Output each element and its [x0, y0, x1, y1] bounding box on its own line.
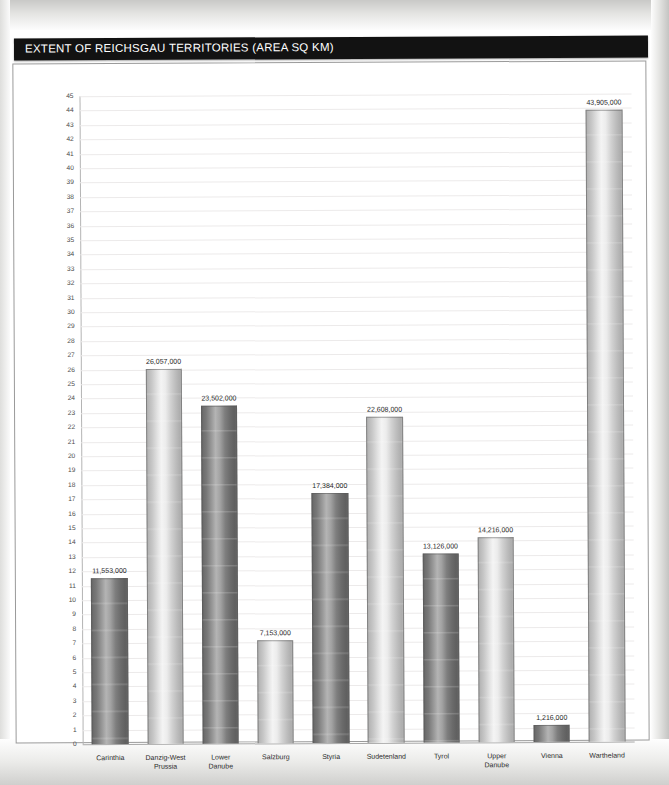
y-axis-line	[80, 96, 84, 744]
y-axis-tick-label: 19	[68, 467, 75, 474]
gridline	[80, 166, 632, 170]
y-axis-tick-label: 6	[73, 655, 77, 662]
gridline	[80, 94, 632, 98]
bar-value-label: 14,216,000	[478, 526, 513, 533]
y-axis-tick-label: 27	[67, 352, 74, 359]
y-axis-tick-label: 7	[72, 640, 76, 647]
y-axis-tick-label: 16	[68, 511, 75, 518]
bar-fill	[91, 578, 128, 745]
page-edge-top	[0, 0, 669, 30]
gridline	[80, 238, 632, 242]
bar-value-label: 23,502,000	[201, 394, 236, 401]
gridline	[81, 324, 633, 328]
bar-vienna[interactable]: 1,216,000Vienna	[534, 724, 571, 742]
y-axis-tick-label: 12	[68, 568, 75, 575]
y-axis-tick-label: 45	[66, 93, 73, 100]
y-axis-tick-label: 34	[67, 251, 74, 258]
bar-styria[interactable]: 17,384,000Styria	[312, 493, 350, 744]
bar-value-label: 26,057,000	[146, 358, 181, 365]
gridline	[80, 108, 632, 112]
y-axis-tick-label: 42	[66, 136, 73, 143]
x-axis-category-label: Wartheland	[569, 750, 645, 760]
page-edge-left	[0, 0, 10, 785]
plot-area: 0123456789101112131415161718192021222324…	[80, 94, 635, 745]
y-axis-tick-label: 33	[67, 266, 74, 273]
y-axis-tick-label: 23	[68, 410, 75, 417]
gridlines	[80, 94, 632, 97]
y-axis-tick-label: 1	[73, 727, 77, 734]
y-axis-tick-label: 0	[73, 741, 77, 748]
bar-value-label: 43,905,000	[586, 98, 621, 105]
y-axis-tick-label: 14	[68, 539, 75, 546]
y-axis-tick-label: 8	[72, 626, 76, 633]
y-axis-tick-label: 39	[67, 179, 74, 186]
y-axis-tick-label: 9	[72, 611, 76, 618]
gridline	[80, 281, 632, 285]
y-axis-tick-label: 30	[67, 309, 74, 316]
page-title: EXTENT OF REICHSGAU TERRITORIES (AREA SQ…	[25, 41, 334, 55]
page-edge-right	[651, 0, 669, 785]
y-axis-tick-label: 38	[67, 194, 74, 201]
bar-value-label: 11,553,000	[92, 567, 127, 574]
y-axis-tick-label: 44	[66, 107, 73, 114]
gridline	[80, 295, 632, 299]
y-axis-tick-label: 24	[68, 395, 75, 402]
y-axis-tick-label: 28	[67, 338, 74, 345]
gridline	[80, 137, 632, 141]
y-axis-tick-label: 13	[68, 554, 75, 561]
gridline	[80, 209, 632, 213]
y-axis-tick-label: 36	[67, 223, 74, 230]
gridline	[81, 353, 633, 357]
gridline	[80, 266, 632, 270]
y-axis-tick-label: 37	[67, 208, 74, 215]
gridline	[80, 194, 632, 198]
y-axis-tick-label: 29	[67, 323, 74, 330]
gridline	[80, 151, 632, 155]
gridline	[80, 252, 632, 256]
bar-fill	[477, 537, 514, 742]
y-axis-tick-label: 5	[73, 669, 77, 676]
gridline	[80, 122, 632, 126]
scanned-page: EXTENT OF REICHSGAU TERRITORIES (AREA SQ…	[0, 0, 669, 785]
bar-tyrol[interactable]: 13,126,000Tyrol	[422, 553, 459, 742]
y-axis-tick-label: 15	[68, 525, 75, 532]
bar-upper-danube[interactable]: 14,216,000Upper Danube	[477, 537, 514, 742]
y-axis-tick-label: 26	[67, 367, 74, 374]
y-axis-tick-label: 21	[68, 439, 75, 446]
y-axis-tick-label: 10	[69, 597, 76, 604]
bar-fill	[534, 724, 571, 742]
y-axis-tick-label: 31	[67, 295, 74, 302]
y-axis-tick-label: 11	[69, 583, 76, 590]
bar-fill	[312, 493, 350, 744]
bar-lower-danube[interactable]: 23,502,000Lower Danube	[201, 405, 239, 744]
bar-danzig-west-prussia[interactable]: 26,057,000Danzig-West Prussia	[145, 369, 183, 744]
bar-sudetenland[interactable]: 22,608,000Sudetenland	[366, 417, 404, 743]
bar-value-label: 17,384,000	[312, 482, 347, 489]
y-axis-tick-label: 2	[73, 712, 77, 719]
y-axis-tick-label: 43	[66, 122, 73, 129]
y-axis-tick-label: 25	[68, 381, 75, 388]
bar-fill	[366, 417, 404, 743]
bar-wartheland[interactable]: 43,905,000Wartheland	[586, 109, 626, 741]
bar-value-label: 7,153,000	[260, 629, 291, 636]
y-axis-tick-label: 40	[66, 165, 73, 172]
gridline	[81, 310, 633, 314]
y-axis-tick-label: 17	[68, 496, 75, 503]
bar-salzburg[interactable]: 7,153,000Salzburg	[257, 640, 294, 743]
bar-value-label: 22,608,000	[367, 406, 402, 413]
bar-fill	[145, 369, 183, 744]
bar-fill	[201, 405, 239, 744]
y-axis-tick-label: 20	[68, 453, 75, 460]
y-axis-tick-label: 4	[73, 683, 77, 690]
bar-fill	[586, 109, 626, 741]
bar-carinthia[interactable]: 11,553,000Carinthia	[91, 578, 128, 745]
gridline	[80, 223, 632, 227]
bar-value-label: 1,216,000	[536, 713, 567, 720]
y-axis-tick-label: 3	[73, 698, 77, 705]
y-axis-tick-label: 22	[68, 424, 75, 431]
gridline	[81, 338, 633, 342]
y-axis-tick-label: 35	[67, 237, 74, 244]
chart-frame: 0123456789101112131415161718192021222324…	[12, 60, 649, 743]
bar-fill	[257, 640, 294, 743]
y-axis-tick-label: 41	[66, 151, 73, 158]
